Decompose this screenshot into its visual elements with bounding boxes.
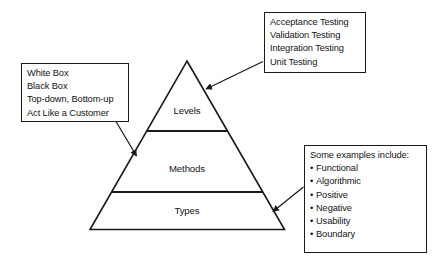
- callout-types-bullet-5: •Usability: [310, 215, 422, 228]
- pyramid-tier-label-levels: Levels: [173, 105, 200, 116]
- leader-arrow-levels: [206, 62, 263, 90]
- callout-types-bullet-2-label: Algorithmic: [316, 176, 361, 186]
- callout-types-bullet-3: •Positive: [310, 189, 422, 202]
- callout-types-bullet-2: •Algorithmic: [310, 175, 422, 188]
- callout-types-bullet-6-label: Boundary: [316, 229, 355, 239]
- leader-arrow-types: [273, 187, 304, 212]
- callout-types-bullet-1: •Functional: [310, 162, 422, 175]
- callout-levels-line-4: Unit Testing: [270, 56, 361, 69]
- pyramid-tier-label-types: Types: [174, 205, 199, 216]
- callout-types-bullet-5-label: Usability: [316, 216, 350, 226]
- callout-types-bullet-3-label: Positive: [316, 190, 348, 200]
- callout-levels-line-1: Acceptance Testing: [270, 16, 361, 29]
- callout-levels-line-2: Validation Testing: [270, 29, 361, 42]
- callout-types-bullet-4: •Negative: [310, 202, 422, 215]
- callout-types-heading: Some examples include:: [310, 149, 422, 162]
- callout-methods-line-3: Top-down, Bottom-up: [27, 93, 124, 106]
- callout-types-bullet-4-label: Negative: [316, 203, 352, 213]
- leader-arrow-methods: [116, 122, 137, 157]
- callout-methods-line-4: Act Like a Customer: [27, 107, 124, 120]
- callout-types-bullet-1-label: Functional: [316, 163, 358, 173]
- testing-pyramid-diagram: Levels Methods Types White Box Black Box…: [0, 0, 444, 271]
- callout-box-methods: White Box Black Box Top-down, Bottom-up …: [21, 63, 129, 122]
- callout-methods-line-2: Black Box: [27, 80, 124, 93]
- callout-levels-line-3: Integration Testing: [270, 42, 361, 55]
- callout-box-levels: Acceptance Testing Validation Testing In…: [264, 12, 366, 73]
- pyramid-tier-label-methods: Methods: [169, 163, 205, 174]
- callout-box-types: Some examples include: •Functional •Algo…: [304, 145, 427, 253]
- callout-types-bullet-6: •Boundary: [310, 228, 422, 241]
- callout-methods-line-1: White Box: [27, 67, 124, 80]
